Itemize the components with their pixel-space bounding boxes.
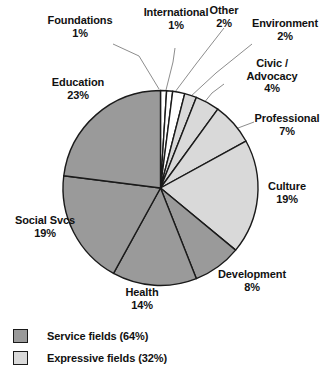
label-civic: Civic / Advocacy4% bbox=[232, 57, 312, 95]
label-social-pct: 19% bbox=[34, 227, 56, 239]
label-professional-pct: 7% bbox=[279, 125, 295, 137]
label-social-svcs: Social Svcs19% bbox=[8, 214, 82, 239]
label-education-pct: 23% bbox=[67, 89, 89, 101]
legend-label-service: Service fields (64%) bbox=[47, 330, 148, 342]
pie-chart-figure: Foundations1% International1% Other2% En… bbox=[0, 0, 326, 379]
label-environment: Environment2% bbox=[245, 17, 325, 42]
chart-legend: Service fields (64%) Expressive fields (… bbox=[13, 325, 313, 369]
label-environment-pct: 2% bbox=[277, 30, 293, 42]
label-foundations-pct: 1% bbox=[72, 27, 88, 39]
label-health: Health14% bbox=[109, 286, 175, 311]
label-culture-pct: 19% bbox=[276, 193, 298, 205]
label-civic-pct: 4% bbox=[264, 82, 280, 94]
label-culture: Culture19% bbox=[258, 180, 316, 205]
label-environment-name: Environment bbox=[252, 17, 318, 29]
label-international-name: International bbox=[144, 6, 209, 18]
label-civic-name: Civic / Advocacy bbox=[246, 57, 297, 82]
label-other: Other2% bbox=[200, 4, 248, 29]
leader-line-international bbox=[166, 48, 175, 90]
label-education: Education23% bbox=[30, 76, 126, 101]
label-other-pct: 2% bbox=[216, 17, 232, 29]
label-foundations: Foundations1% bbox=[28, 14, 132, 39]
label-international-pct: 1% bbox=[168, 19, 184, 31]
pie-slices-group bbox=[63, 90, 258, 285]
leader-line-civic bbox=[203, 84, 224, 104]
label-health-name: Health bbox=[125, 286, 158, 298]
legend-row-service: Service fields (64%) bbox=[13, 325, 313, 347]
label-culture-name: Culture bbox=[268, 180, 306, 192]
leader-line-other bbox=[175, 28, 224, 92]
label-development-pct: 8% bbox=[244, 281, 260, 293]
label-development: Development8% bbox=[208, 268, 296, 293]
label-health-pct: 14% bbox=[131, 299, 153, 311]
label-development-name: Development bbox=[218, 268, 286, 280]
legend-row-expressive: Expressive fields (32%) bbox=[13, 347, 313, 369]
label-social-name: Social Svcs bbox=[15, 214, 75, 226]
legend-swatch-expressive bbox=[13, 351, 28, 365]
label-professional-name: Professional bbox=[255, 112, 320, 124]
label-education-name: Education bbox=[52, 76, 104, 88]
label-professional: Professional7% bbox=[249, 112, 325, 137]
legend-label-expressive: Expressive fields (32%) bbox=[47, 352, 167, 364]
label-other-name: Other bbox=[210, 4, 239, 16]
pie-slice-education[interactable] bbox=[64, 90, 161, 188]
legend-swatch-service bbox=[13, 329, 28, 343]
label-foundations-name: Foundations bbox=[48, 14, 113, 26]
